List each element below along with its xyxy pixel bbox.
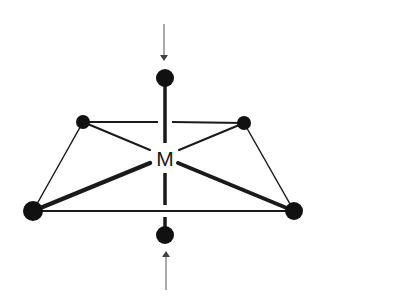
atom-axial-bottom: [156, 226, 174, 244]
atom-back-left: [76, 115, 90, 129]
atom-front-left: [23, 201, 43, 221]
bond-back-right: [179, 123, 244, 150]
left-edge: [33, 122, 83, 211]
metal-center-label: M: [156, 147, 174, 170]
right-edge: [244, 123, 294, 211]
bond-front-left: [33, 163, 150, 211]
atom-axial-top: [156, 69, 174, 87]
octahedral-complex-diagram: M: [0, 0, 399, 306]
atom-back-right: [237, 116, 251, 130]
bond-back-left: [83, 122, 150, 150]
atom-front-right: [285, 202, 303, 220]
back-edge-right: [172, 122, 244, 123]
bond-front-right: [178, 163, 294, 211]
